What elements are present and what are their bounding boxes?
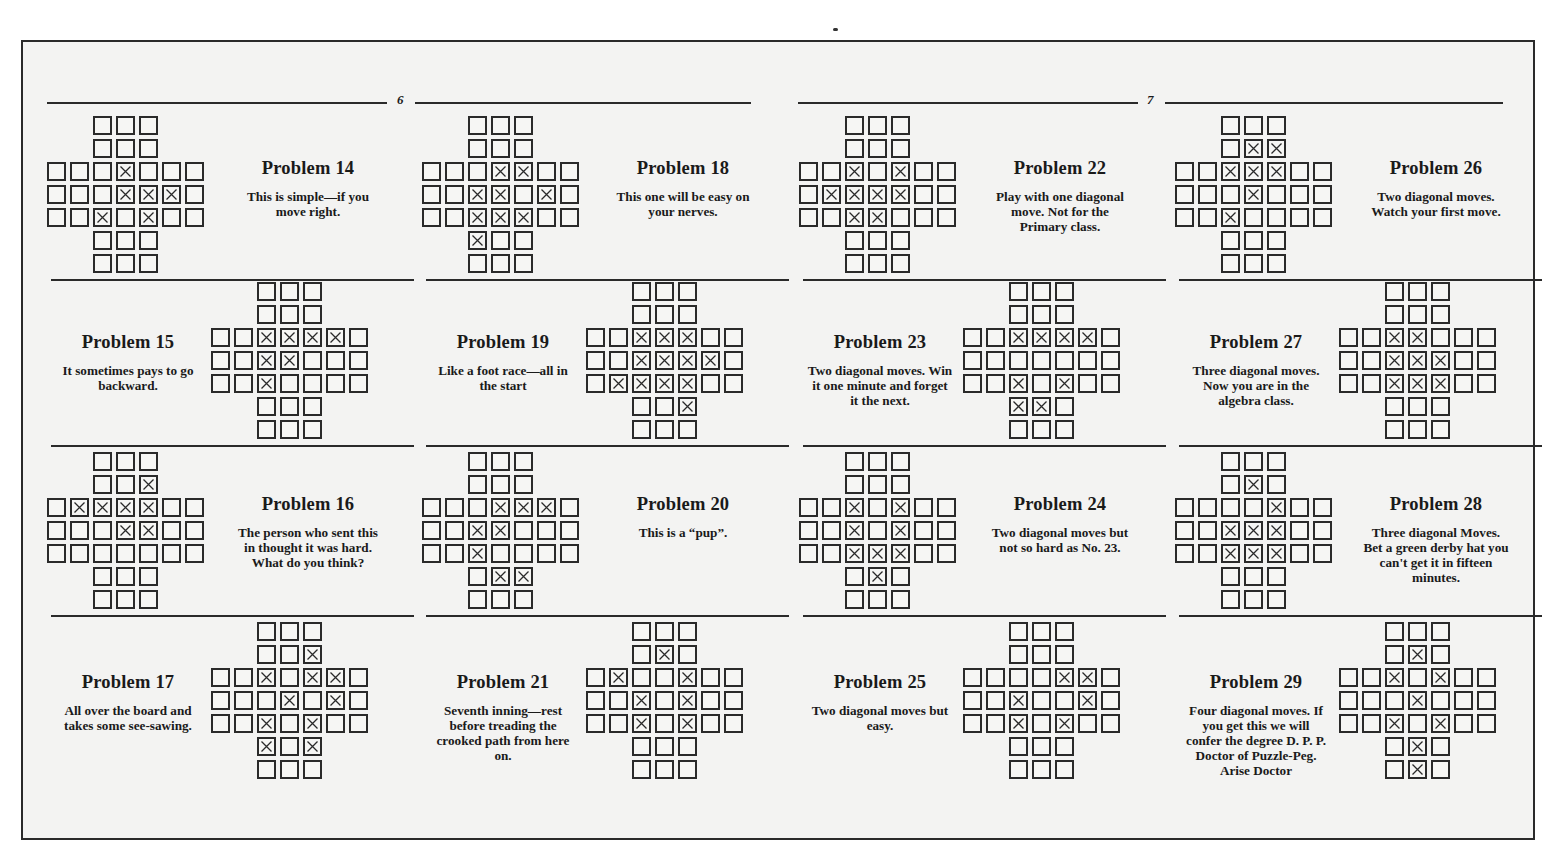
problem-title: Problem 18 [608,158,758,179]
empty-hole [963,351,982,370]
empty-hole [655,282,674,301]
empty-hole [937,162,956,181]
hole-with-peg [139,521,158,540]
empty-hole [1032,305,1051,324]
empty-hole [422,162,441,181]
empty-hole [1313,162,1332,181]
hole-with-peg [1244,475,1263,494]
empty-hole [963,691,982,710]
empty-hole [963,714,982,733]
empty-hole [1009,420,1028,439]
empty-hole [1385,397,1404,416]
empty-hole [257,691,276,710]
empty-hole [185,185,204,204]
problem-description: Play with one diagonal move. Not for the… [985,189,1135,234]
empty-hole [1221,452,1240,471]
hole-with-peg [162,185,181,204]
empty-hole [1101,691,1120,710]
empty-hole [537,162,556,181]
empty-hole [1009,737,1028,756]
empty-hole [799,185,818,204]
hole-with-peg [1431,714,1450,733]
empty-hole [724,691,743,710]
empty-hole [868,231,887,250]
problem-text: Problem 14This is simple—if you move rig… [233,158,383,219]
hole-with-peg [491,567,510,586]
empty-hole [632,420,651,439]
empty-hole [257,282,276,301]
hole-with-peg [1055,668,1074,687]
empty-hole [422,544,441,563]
empty-hole [47,162,66,181]
hole-with-peg [609,668,628,687]
x-mark-icon [871,547,884,560]
empty-hole [303,691,322,710]
empty-hole [1290,498,1309,517]
hole-with-peg [257,351,276,370]
empty-hole [211,374,230,393]
x-mark-icon [635,354,648,367]
empty-hole [211,714,230,733]
problem-title: Problem 26 [1361,158,1511,179]
empty-hole [1339,328,1358,347]
empty-hole [139,567,158,586]
x-mark-icon [1247,478,1260,491]
peg-board [1175,116,1340,281]
x-mark-icon [1434,354,1447,367]
empty-hole [303,282,322,301]
empty-hole [1175,208,1194,227]
empty-hole [632,305,651,324]
x-mark-icon [848,188,861,201]
empty-hole [1477,714,1496,733]
hole-with-peg [891,498,910,517]
empty-hole [632,622,651,641]
empty-hole [914,544,933,563]
x-mark-icon [658,377,671,390]
empty-hole [491,231,510,250]
empty-hole [560,208,579,227]
empty-hole [586,374,605,393]
problem-text: Problem 28Three diagonal Moves. Bet a gr… [1361,494,1511,585]
x-mark-icon [1247,524,1260,537]
empty-hole [891,208,910,227]
empty-hole [93,139,112,158]
problem-title: Problem 29 [1181,672,1331,693]
x-mark-icon [306,717,319,730]
empty-hole [609,328,628,347]
empty-hole [257,760,276,779]
empty-hole [1267,590,1286,609]
hole-with-peg [678,351,697,370]
empty-hole [891,231,910,250]
empty-hole [70,521,89,540]
peg-board [47,452,212,617]
empty-hole [514,475,533,494]
x-mark-icon [1411,331,1424,344]
empty-hole [1032,760,1051,779]
empty-hole [937,544,956,563]
empty-hole [116,139,135,158]
column-2: Problem 18This one will be easy on your … [418,42,793,842]
empty-hole [422,208,441,227]
hole-with-peg [609,374,628,393]
problem-text: Problem 27Three diagonal moves. Now you … [1181,332,1331,408]
empty-hole [632,737,651,756]
empty-hole [280,714,299,733]
x-mark-icon [283,331,296,344]
hole-with-peg [1244,185,1263,204]
hole-with-peg [632,691,651,710]
empty-hole [1339,714,1358,733]
empty-hole [280,305,299,324]
empty-hole [1477,691,1496,710]
empty-hole [445,544,464,563]
hole-with-peg [491,498,510,517]
empty-hole [1313,521,1332,540]
hole-with-peg [845,521,864,540]
empty-hole [586,714,605,733]
empty-hole [93,567,112,586]
empty-hole [162,208,181,227]
empty-hole [986,691,1005,710]
hole-with-peg [868,567,887,586]
hole-with-peg [1055,714,1074,733]
empty-hole [1408,282,1427,301]
empty-hole [1454,668,1473,687]
